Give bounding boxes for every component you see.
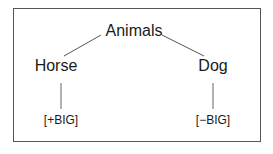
node-root: Animals — [106, 22, 163, 40]
feature-horse: [+BIG] — [44, 113, 78, 127]
feature-dog: [−BIG] — [196, 113, 230, 127]
edge-animals-horse — [64, 35, 101, 56]
edge-animals-dog — [162, 35, 204, 56]
node-horse: Horse — [35, 57, 78, 75]
node-dog: Dog — [198, 57, 227, 75]
